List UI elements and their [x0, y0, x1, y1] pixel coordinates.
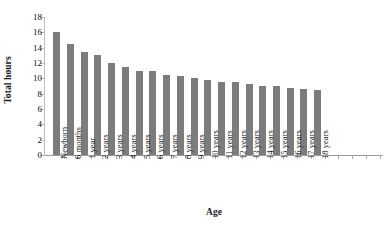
x-axis-tick-label: 13 years: [252, 130, 261, 159]
x-axis-tick-label: Newborn: [60, 127, 69, 159]
y-axis-tick-label: 10: [33, 74, 42, 83]
x-axis-tick-label: 3 years: [115, 134, 124, 159]
x-axis-tick-label: 17 years: [307, 130, 316, 159]
x-axis-tick-label: 12 years: [239, 130, 248, 159]
y-axis-tick-label: 6: [38, 105, 43, 114]
x-axis-tick-label: 14 years: [266, 130, 275, 159]
x-axis-tick-label: 5 years: [143, 134, 152, 159]
x-axis-tick-label: 4 years: [129, 134, 138, 159]
x-axis-tick-label: 18 years: [321, 130, 330, 159]
x-axis-tick-label: 6 years: [156, 134, 165, 159]
x-axis-tick-label: 11 years: [225, 130, 234, 159]
x-axis-tick-label: 16 years: [294, 130, 303, 159]
x-axis-tick-labels: Newborn6 months1 year2 years3 years4 yea…: [45, 159, 383, 201]
y-axis-tick-label: 0: [38, 151, 43, 160]
bar-chart: Total hours 024681012141618 Newborn6 mon…: [0, 0, 388, 227]
y-axis-tick-label: 2: [38, 135, 43, 144]
y-axis-tick-label: 8: [38, 89, 43, 98]
y-axis-title-text: Total hours: [3, 56, 13, 103]
x-axis-tick-label: 1 year: [88, 138, 97, 159]
y-axis-title: Total hours: [0, 0, 16, 160]
x-axis-tick-label: 9 years: [197, 134, 206, 159]
x-axis-tick-label: 10 years: [211, 130, 220, 159]
y-axis-tick-label: 12: [33, 59, 42, 68]
y-axis-tick-label: 14: [33, 43, 42, 52]
y-axis-tick-label: 18: [33, 13, 42, 22]
x-axis-tick-label: 8 years: [184, 134, 193, 159]
y-axis-tick-label: 16: [33, 28, 42, 37]
y-axis-tick-label: 4: [38, 120, 43, 129]
x-axis-tick-label: 2 years: [101, 134, 110, 159]
x-axis-tick-label: 7 years: [170, 134, 179, 159]
x-axis-tick-label: 6 months: [74, 127, 83, 159]
x-axis-title: Age: [45, 207, 383, 217]
x-axis-tick-label: 15 years: [280, 130, 289, 159]
